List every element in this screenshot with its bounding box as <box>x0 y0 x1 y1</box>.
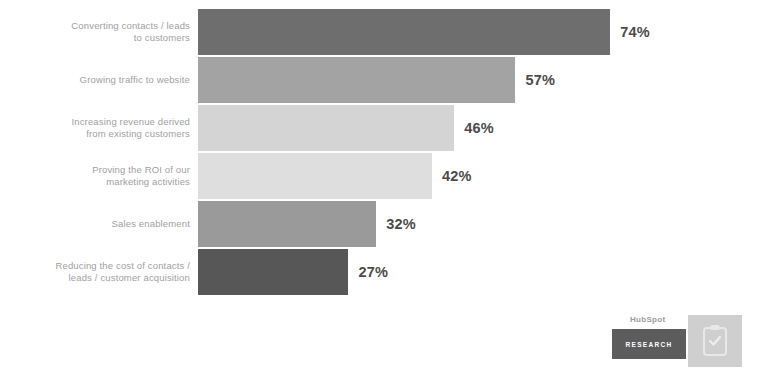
bar-value-label: 42% <box>442 168 472 184</box>
bar-value-label: 57% <box>525 72 555 88</box>
bar-row: Reducing the cost of contacts / leads / … <box>0 248 769 296</box>
bar-row: Converting contacts / leads to customers… <box>0 8 769 56</box>
bar-row: Proving the ROI of our marketing activit… <box>0 152 769 200</box>
bar-track: 32% <box>198 201 769 247</box>
bar-value-label: 32% <box>386 216 416 232</box>
bar-fill <box>198 105 454 151</box>
bar-row: Growing traffic to website 57% <box>0 56 769 104</box>
bar-track: 74% <box>198 9 769 55</box>
bar-category-label: Converting contacts / leads to customers <box>8 20 190 45</box>
bar-track: 42% <box>198 153 769 199</box>
bar-value-label: 27% <box>358 264 388 280</box>
bar-fill <box>198 201 376 247</box>
research-badge: RESEARCH <box>612 329 686 359</box>
bar-value-label: 46% <box>464 120 494 136</box>
bar-row: Sales enablement 32% <box>0 200 769 248</box>
chart-plot-area: Converting contacts / leads to customers… <box>0 8 769 296</box>
bar-category-label: Proving the ROI of our marketing activit… <box>8 164 190 189</box>
bar-category-label: Increasing revenue derived from existing… <box>8 116 190 141</box>
clipboard-icon <box>688 315 742 367</box>
bar-track: 27% <box>198 249 769 295</box>
hubspot-wordmark: HubSpot <box>630 315 665 324</box>
bar-category-label: Sales enablement <box>8 218 190 231</box>
hubspot-research-logo: HubSpot RESEARCH <box>612 313 752 375</box>
bar-fill <box>198 9 610 55</box>
bar-fill <box>198 153 432 199</box>
bar-fill <box>198 249 348 295</box>
bar-category-label: Growing traffic to website <box>8 74 190 87</box>
research-badge-label: RESEARCH <box>626 341 673 348</box>
bar-track: 46% <box>198 105 769 151</box>
bar-row: Increasing revenue derived from existing… <box>0 104 769 152</box>
bar-fill <box>198 57 515 103</box>
bar-chart: Converting contacts / leads to customers… <box>0 0 769 388</box>
bar-category-label: Reducing the cost of contacts / leads / … <box>8 260 190 285</box>
bar-track: 57% <box>198 57 769 103</box>
bar-value-label: 74% <box>620 24 650 40</box>
